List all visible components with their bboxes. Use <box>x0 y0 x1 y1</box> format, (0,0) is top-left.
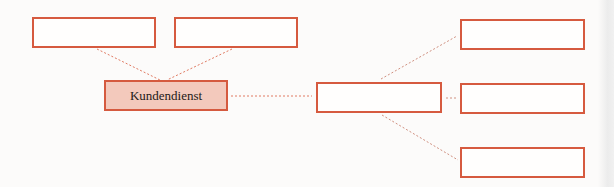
node-left-top-2 <box>174 17 298 48</box>
node-right-2 <box>460 83 585 114</box>
node-right-1 <box>460 19 585 50</box>
connector-left-top-1-center <box>97 49 160 80</box>
node-right-3 <box>460 147 585 178</box>
page-edge-shadow <box>598 0 614 187</box>
node-left-top-1 <box>32 17 156 48</box>
connector-hub-right-3 <box>382 115 458 160</box>
connector-left-top-2-center <box>167 49 232 80</box>
connector-hub-right-1 <box>381 36 457 79</box>
node-center-kundendienst: Kundendienst <box>104 80 228 111</box>
node-hub <box>316 82 442 113</box>
node-label: Kundendienst <box>130 88 202 104</box>
